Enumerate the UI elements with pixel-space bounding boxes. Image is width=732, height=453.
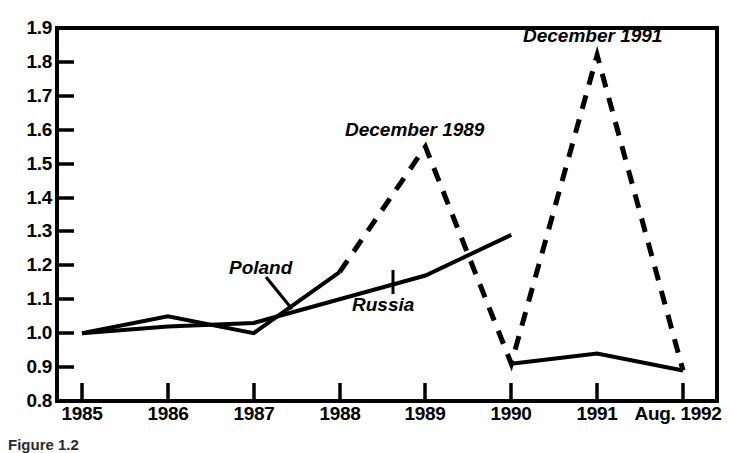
y-axis-label-0.9: 0.9 [4,357,52,376]
y-axis-label-1.9: 1.9 [4,18,52,37]
y-axis-label-1.4: 1.4 [4,188,52,207]
x-axis-label-1989: 1989 [404,404,445,423]
line-chart [0,0,732,453]
figure-container: 1.9 1.8 1.7 1.6 1.5 1.4 1.3 1.2 1.1 1.0 … [0,0,732,453]
y-axis-label-1.7: 1.7 [4,86,52,105]
series-line-poland-dashed-segment [340,55,683,370]
y-axis-label-1.6: 1.6 [4,120,52,139]
x-axis-label-1990: 1990 [490,404,531,423]
series-label-russia: Russia [352,295,414,314]
series-line-russia-tail [511,354,683,371]
x-axis-label-1988: 1988 [319,404,360,423]
y-axis-label-1.8: 1.8 [4,52,52,71]
y-axis-label-group: 1.9 1.8 1.7 1.6 1.5 1.4 1.3 1.2 1.1 1.0 … [0,0,52,453]
figure-caption: Figure 1.2 [8,437,79,453]
plot-border [57,28,717,401]
y-axis-label-1.2: 1.2 [4,255,52,274]
y-axis-ticks [57,62,74,367]
y-axis-label-1.5: 1.5 [4,154,52,173]
x-axis-label-1985: 1985 [61,404,102,423]
series-label-poland: Poland [229,258,292,277]
x-axis-label-1991: 1991 [576,404,617,423]
x-axis-ticks [82,383,683,401]
plot-frame [57,28,717,401]
annotation-december-1991: December 1991 [523,26,662,45]
y-axis-label-1.3: 1.3 [4,221,52,240]
x-axis-label-aug-1992: Aug. 1992 [634,404,721,423]
y-axis-label-1.0: 1.0 [4,323,52,342]
x-axis-label-group: 1985 1986 1987 1988 1989 1990 1991 Aug. … [0,404,732,438]
series-line-poland-solid-segment [82,272,340,333]
x-axis-label-1987: 1987 [233,404,274,423]
annotation-december-1989: December 1989 [345,120,484,139]
x-axis-label-1986: 1986 [147,404,188,423]
y-axis-label-1.1: 1.1 [4,289,52,308]
poland-leader-line [266,277,292,309]
